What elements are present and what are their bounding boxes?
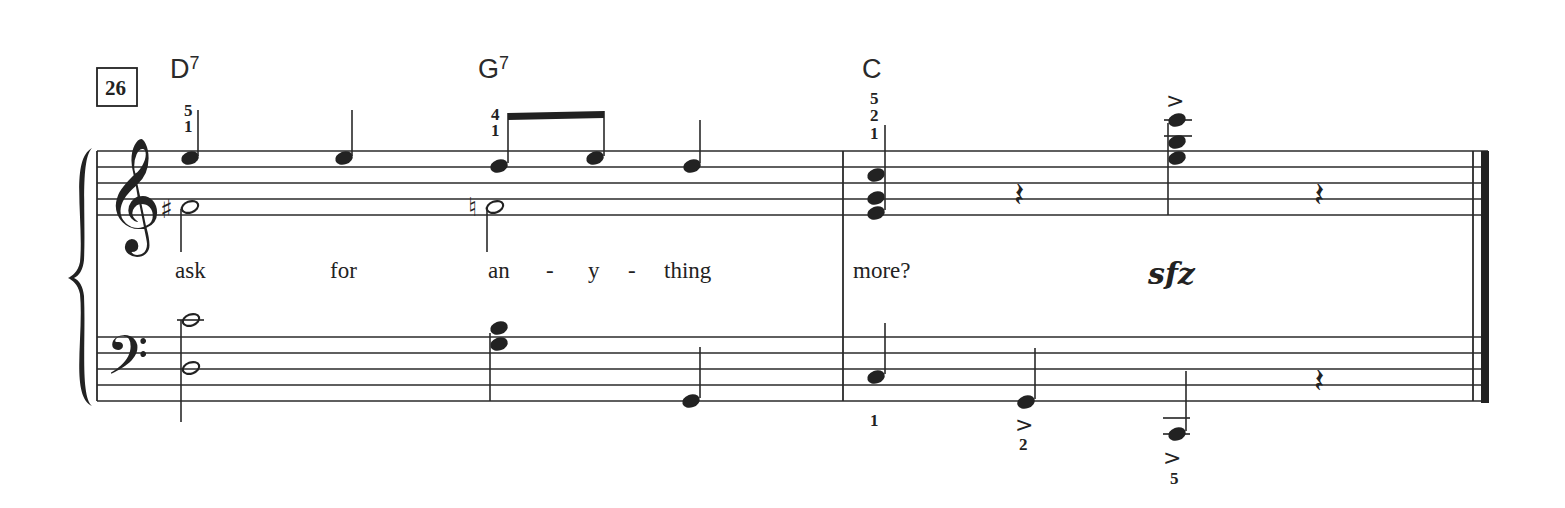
note-head [488, 157, 509, 175]
lyric-syllable: ask [175, 258, 206, 283]
lyric-hyphen: - [546, 258, 554, 283]
lyrics: ask for an - y - thing more? [175, 258, 910, 283]
note-head [865, 368, 886, 386]
svg-text:2: 2 [870, 106, 879, 125]
accent-icon: > [1015, 412, 1033, 437]
half-note-head [180, 199, 200, 215]
note-head [488, 319, 509, 337]
note-head [1015, 393, 1036, 411]
eighth-beam [508, 111, 604, 120]
quarter-rest-icon: 𝄽 [1014, 174, 1024, 214]
quarter-rest-icon: 𝄽 [1314, 360, 1324, 400]
svg-text:1: 1 [870, 411, 879, 430]
svg-text:1: 1 [491, 121, 500, 140]
grand-staff-brace-icon [68, 148, 92, 406]
quarter-rest-icon: 𝄽 [1314, 174, 1324, 214]
note-head [1166, 425, 1187, 443]
treble-measure-2: 𝄽 > 𝄽 [865, 88, 1324, 222]
treble-clef-icon: 𝄞 [104, 137, 162, 257]
sheet-music-score: 26 D7 G7 C 𝄞 𝄢 5 1 4 1 5 2 1 [0, 0, 1565, 508]
chord-symbol-g7: G7 [478, 53, 509, 84]
rehearsal-number: 26 [105, 76, 126, 100]
bass-clef-icon: 𝄢 [106, 324, 148, 401]
half-note-head [485, 199, 505, 215]
dynamic-sfz: sfz [1147, 256, 1196, 291]
note-head [865, 166, 886, 184]
note-head [1166, 111, 1187, 129]
chord-symbol-c: C [862, 54, 882, 84]
note-head [865, 189, 886, 207]
treble-staff [97, 151, 1488, 215]
bass-measure-1 [177, 312, 702, 422]
natural-icon: ♮ [468, 192, 477, 222]
chord-symbol-d7: D7 [170, 53, 200, 84]
final-thick-barline [1481, 151, 1489, 403]
chord-symbols: D7 G7 C [170, 53, 882, 84]
svg-text:1: 1 [870, 124, 879, 143]
bass-staff [97, 337, 1488, 401]
lyric-syllable: y [588, 258, 600, 283]
lyric-hyphen: - [628, 258, 636, 283]
lyric-syllable: for [330, 258, 357, 283]
treble-measure-1: ♯ ♮ [160, 110, 703, 252]
svg-text:2: 2 [1019, 435, 1028, 454]
svg-text:1: 1 [184, 117, 193, 136]
note-head [680, 392, 701, 410]
sharp-icon: ♯ [160, 194, 173, 224]
bass-measure-2: > > 𝄽 [865, 323, 1324, 470]
accent-icon: > [1163, 445, 1181, 470]
lyric-syllable: an [488, 258, 510, 283]
svg-text:5: 5 [1170, 469, 1179, 488]
lyric-syllable: thing [664, 258, 712, 283]
lyric-syllable: more? [853, 258, 910, 283]
rehearsal-mark: 26 [97, 68, 137, 106]
half-note-head [181, 360, 201, 376]
accent-icon: > [1166, 88, 1184, 113]
note-head [865, 204, 886, 222]
